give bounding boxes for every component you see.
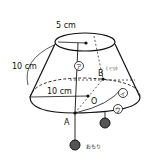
top-radius-line (58, 42, 86, 43)
weight-b (100, 118, 110, 128)
label-mark-u: ウ (115, 106, 121, 113)
label-b-note: (ミツ) (106, 66, 118, 71)
label-bottom-radius: 10 cm (47, 87, 72, 96)
label-slant: 10 cm (12, 62, 37, 71)
label-top-radius: 5 cm (56, 21, 76, 30)
label-a: A (64, 118, 70, 127)
label-b: B (98, 69, 104, 78)
label-o: O (91, 97, 97, 106)
label-weight: おもり (86, 143, 101, 150)
top-center-point (84, 41, 87, 44)
label-mark-a: ア (76, 64, 82, 70)
right-side (115, 44, 140, 97)
weight-a (70, 140, 80, 150)
cone-diagram: 5 cm 10 cm 10 cm A B (ミツ) O ア イ ウ おもり (0, 0, 163, 161)
bottom-radius-line (30, 96, 88, 97)
diagram-svg: 5 cm 10 cm 10 cm A B (ミツ) O ア イ ウ おもり (0, 0, 163, 161)
label-mark-i: イ (120, 91, 126, 97)
